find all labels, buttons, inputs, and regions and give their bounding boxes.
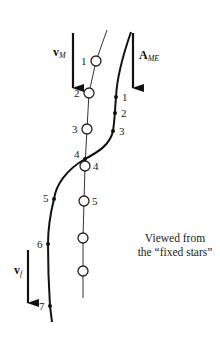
object-marker-7 — [48, 304, 52, 308]
object-marker-1 — [114, 95, 118, 99]
moon-marker-5 — [79, 196, 89, 206]
object-label-3: 3 — [119, 125, 125, 137]
object-label-5: 5 — [43, 192, 49, 204]
object-marker-6 — [46, 242, 50, 246]
object-label-6: 6 — [37, 238, 43, 250]
moon-label-5: 5 — [92, 195, 98, 207]
moon-marker-6 — [78, 233, 88, 243]
moon-marker-2 — [84, 88, 94, 98]
object-marker-4 — [83, 157, 87, 161]
diagram-canvas: 1 2 3 4 5 1 2 3 4 5 6 7 vM AME vf — [0, 0, 220, 340]
moon-label-3: 3 — [72, 123, 78, 135]
object-label-1: 1 — [122, 91, 128, 103]
caption: Viewed from the “fixed stars” — [130, 231, 220, 259]
v-f-label: vf — [14, 263, 24, 278]
object-marker-3 — [111, 129, 115, 133]
moon-marker-1 — [91, 56, 101, 66]
moon-label-1: 1 — [81, 55, 87, 67]
object-label-7: 7 — [39, 300, 45, 312]
v-m-label: vM — [53, 45, 67, 60]
object-label-4: 4 — [74, 148, 80, 160]
object-marker-5 — [52, 197, 56, 201]
moon-marker-4 — [80, 161, 90, 171]
moon-label-2: 2 — [74, 87, 80, 99]
a-me-label: AME — [139, 48, 159, 63]
moon-label-4: 4 — [93, 160, 99, 172]
moon-marker-3 — [82, 124, 92, 134]
caption-line-1: Viewed from — [130, 231, 220, 245]
object-marker-2 — [113, 111, 117, 115]
object-label-2: 2 — [121, 107, 127, 119]
caption-line-2: the “fixed stars” — [130, 245, 220, 259]
fixed-star-path-curve — [48, 32, 131, 322]
moon-marker-7 — [78, 266, 88, 276]
